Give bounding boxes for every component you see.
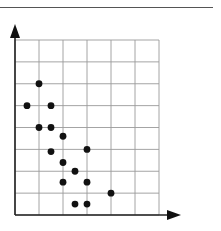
data-point: [72, 201, 79, 208]
data-point: [84, 179, 91, 186]
data-point: [108, 190, 115, 197]
data-point: [36, 80, 43, 87]
data-point: [60, 159, 67, 166]
data-point: [60, 179, 67, 186]
data-point: [72, 168, 79, 175]
axes: [10, 24, 181, 220]
x-axis-arrow-icon: [167, 210, 181, 220]
data-point: [84, 201, 91, 208]
data-point: [36, 124, 43, 131]
data-point: [60, 133, 67, 140]
y-axis-arrow-icon: [10, 24, 20, 38]
data-points: [24, 80, 115, 207]
scatter-chart: [0, 0, 221, 231]
data-point: [24, 102, 31, 109]
data-point: [48, 102, 55, 109]
data-point: [48, 148, 55, 155]
data-point: [84, 146, 91, 153]
data-point: [48, 124, 55, 131]
